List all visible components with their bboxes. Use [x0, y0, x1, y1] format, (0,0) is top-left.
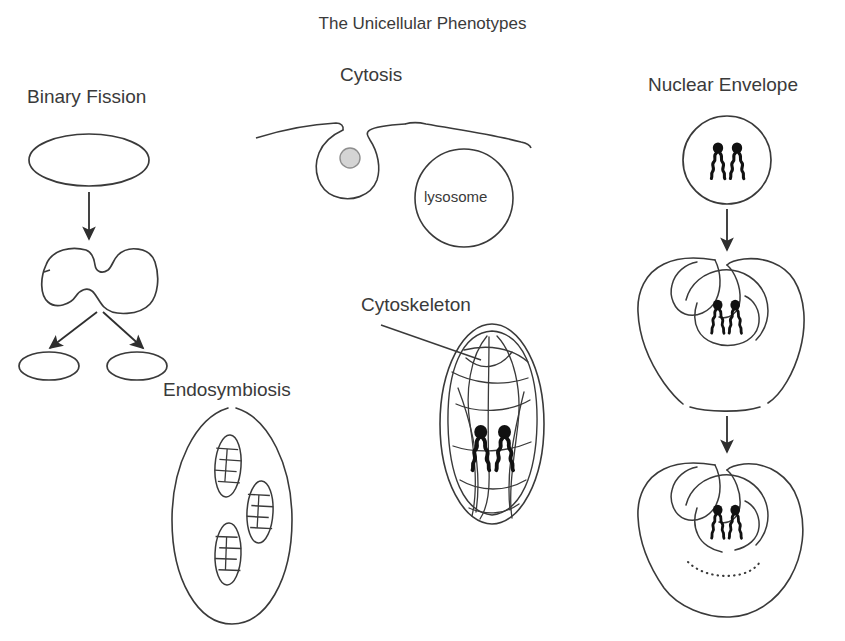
mitochondrion-1	[213, 434, 243, 498]
panel-binary-fission	[19, 134, 167, 380]
fission-arrow-2-left	[50, 312, 97, 348]
label-endosymbiosis: Endosymbiosis	[163, 379, 291, 401]
label-lysosome: lysosome	[424, 188, 487, 205]
panel-cytoskeleton	[381, 324, 544, 524]
stage-3-dotted-seal	[688, 560, 761, 576]
label-cytoskeleton: Cytoskeleton	[361, 294, 471, 316]
label-nuclear-envelope: Nuclear Envelope	[648, 74, 798, 96]
nuclear-stage-1-cell	[683, 116, 771, 204]
diagram-page: The Unicellular Phenotypes Binary Fissio…	[0, 0, 845, 641]
daughter-cell-left	[19, 352, 79, 380]
nuclear-stage-2	[638, 258, 804, 411]
nuclear-stage-3-chromosomes	[712, 505, 742, 538]
daughter-cell-right	[107, 352, 167, 380]
cytoskeleton-chromosome-pair	[473, 425, 514, 470]
engulfed-particle	[340, 148, 360, 168]
panel-nuclear-envelope	[638, 116, 804, 617]
label-cytosis: Cytosis	[340, 64, 402, 86]
stage-3-nuclear-region	[695, 501, 759, 552]
mitochondrion-2	[245, 480, 274, 543]
stage-2-nuclear-region	[695, 296, 759, 345]
label-binary-fission: Binary Fission	[27, 86, 146, 108]
fission-arrow-2-right	[103, 312, 143, 348]
panel-cytosis	[256, 123, 531, 248]
dividing-cell	[42, 248, 158, 313]
panel-endosymbiosis	[172, 408, 292, 624]
parent-cell	[29, 134, 149, 186]
cytoskeleton-leader-line	[381, 325, 481, 360]
filament-network	[452, 336, 531, 519]
plasma-membrane-right	[405, 123, 531, 149]
mitochondrion-3	[214, 523, 242, 586]
page-title: The Unicellular Phenotypes	[0, 14, 845, 34]
stage-2-outer-membrane	[638, 258, 804, 411]
nuclear-stage-1-chromosomes	[711, 142, 743, 178]
endosymbiosis-host-cell	[172, 408, 292, 624]
invagination-pocket	[316, 124, 405, 199]
plasma-membrane-left	[256, 123, 343, 138]
nuclear-stage-2-chromosomes	[712, 300, 742, 333]
nuclear-stage-3	[638, 463, 803, 617]
cytoskeleton-cell-outline	[440, 324, 544, 524]
